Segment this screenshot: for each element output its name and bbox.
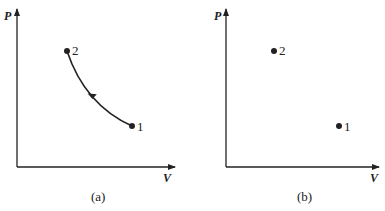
panel-a <box>17 9 175 167</box>
point-2-b <box>271 48 277 54</box>
caption-a: (a) <box>91 190 105 203</box>
p-axis-label-a: P <box>4 10 11 23</box>
panel-b <box>226 9 379 167</box>
point-2-a <box>64 48 70 54</box>
point-1-label-a: 1 <box>137 120 144 133</box>
point-1-b <box>336 123 342 129</box>
caption-b: (b) <box>297 190 312 203</box>
p-axis-label-b: P <box>214 10 221 23</box>
point-2-label-a: 2 <box>72 44 79 57</box>
point-1-a <box>129 123 135 129</box>
v-axis-label-b: V <box>370 172 378 185</box>
point-2-label-b: 2 <box>279 44 286 57</box>
pv-diagrams <box>0 0 385 211</box>
v-axis-label-a: V <box>163 172 171 185</box>
process-curve-a <box>67 51 132 126</box>
point-1-label-b: 1 <box>344 120 351 133</box>
